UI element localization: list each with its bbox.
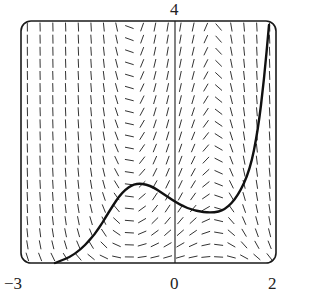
slope-segment (192, 83, 195, 92)
slope-segment (243, 156, 245, 165)
slope-segment (191, 168, 195, 176)
slope-segment (77, 228, 79, 237)
slope-segment (53, 192, 54, 201)
slope-segment (180, 59, 182, 68)
slope-segment (189, 243, 197, 247)
slope-segment (103, 47, 104, 56)
slope-segment (112, 256, 121, 258)
slope-segment (203, 169, 210, 175)
slope-segment (103, 59, 104, 68)
slope-segment (269, 228, 271, 237)
slope-segment (190, 218, 197, 224)
slope-segment (125, 135, 134, 137)
y-tick-label-top: 4 (170, 1, 179, 18)
slope-segment (75, 254, 81, 261)
slope-segment (203, 132, 209, 139)
slope-segment (231, 35, 233, 44)
slope-segment (113, 230, 120, 235)
slope-segment (243, 168, 245, 177)
slope-segment (39, 240, 41, 249)
slope-segment (91, 35, 92, 44)
slope-segment (230, 168, 234, 176)
slope-segment (256, 192, 258, 201)
slope-segment (152, 193, 157, 201)
slope-segment (40, 192, 41, 201)
slope-segment (166, 132, 169, 141)
slope-segment (179, 107, 181, 116)
slope-segment (243, 144, 245, 153)
slope-segment (242, 217, 246, 225)
slope-segment (153, 156, 157, 164)
slope-segment (125, 38, 134, 41)
slope-segment (51, 253, 55, 261)
slope-segment (257, 107, 258, 116)
slope-segment (115, 156, 119, 164)
slope-segment (256, 216, 258, 225)
slope-segment (216, 36, 222, 43)
slope-segment (177, 243, 185, 248)
slope-segment (125, 62, 134, 65)
slope-segment (179, 168, 183, 176)
slope-segment (103, 132, 105, 141)
slope-segment (178, 180, 182, 188)
slope-segment (215, 158, 223, 162)
slope-segment (115, 120, 118, 129)
slope-segment (192, 108, 195, 117)
slope-segment (214, 257, 223, 258)
slope-segment (269, 144, 270, 153)
slope-segment (125, 172, 134, 173)
slope-segment (257, 95, 258, 104)
slope-segment (269, 216, 271, 225)
slope-segment (140, 144, 145, 151)
slope-segment (204, 59, 208, 67)
slope-segment (215, 134, 223, 139)
slope-segment (202, 182, 209, 188)
slope-segment (244, 71, 245, 80)
slope-segment (203, 108, 208, 116)
slope-segment (154, 71, 156, 80)
solution-curve (55, 25, 269, 263)
slope-segment (91, 156, 92, 165)
slope-segment (90, 216, 93, 225)
slope-segment (65, 204, 66, 213)
slope-segment (269, 107, 270, 116)
slope-segment (125, 208, 134, 209)
slope-segment (230, 95, 232, 104)
slope-segment (40, 180, 41, 189)
slope-segment (91, 144, 92, 153)
slope-segment (53, 168, 54, 177)
slope-segment (214, 195, 223, 198)
slope-segment (242, 229, 247, 237)
slope-segment (138, 244, 147, 247)
slope-segment (180, 47, 182, 56)
slope-segment (215, 60, 221, 66)
slope-segment (115, 108, 118, 117)
slope-segment (203, 120, 208, 127)
slope-segment (65, 132, 66, 141)
slope-segment (91, 71, 92, 80)
slope-segment (204, 96, 209, 104)
slope-segment (202, 244, 211, 246)
slope-segment (113, 218, 120, 224)
slope-segment (192, 120, 195, 129)
slope-segment (204, 35, 208, 43)
slope-segment (256, 204, 258, 213)
slope-segment (154, 120, 157, 129)
slope-segment (244, 107, 245, 116)
slope-segment (103, 180, 105, 189)
slope-segment (103, 144, 105, 153)
slope-segment (167, 59, 169, 68)
slope-segment (203, 157, 209, 164)
x-tick-label-zero: 0 (170, 275, 179, 292)
slope-segment (230, 144, 233, 153)
slope-segment (167, 47, 169, 56)
slope-segment (231, 47, 233, 56)
slope-segment (154, 95, 157, 104)
slope-segment (215, 183, 223, 186)
slope-segment (125, 99, 134, 101)
slope-segment (140, 84, 144, 92)
slope-segment (114, 205, 120, 212)
slope-segment (256, 180, 257, 189)
slope-segment (257, 35, 258, 44)
slope-segment (102, 204, 105, 212)
